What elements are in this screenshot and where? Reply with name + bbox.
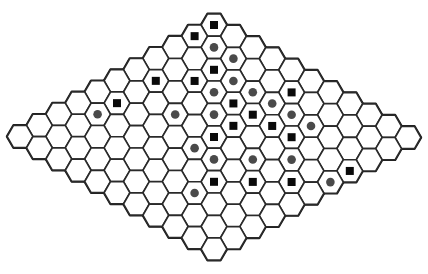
hex-cell[interactable] — [201, 238, 227, 260]
hex-game-board — [0, 0, 428, 274]
square-stone-icon — [113, 99, 121, 107]
circle-stone-icon — [210, 43, 219, 52]
square-stone-icon — [249, 178, 257, 186]
circle-stone-icon — [93, 110, 102, 119]
circle-stone-icon — [287, 155, 296, 164]
circle-stone-icon — [307, 122, 316, 131]
circle-stone-icon — [210, 88, 219, 97]
square-stone-icon — [229, 99, 237, 107]
square-stone-icon — [210, 133, 218, 141]
circle-stone-icon — [210, 110, 219, 119]
square-stone-icon — [288, 178, 296, 186]
circle-stone-icon — [249, 155, 258, 164]
square-stone-icon — [210, 66, 218, 74]
square-stone-icon — [229, 122, 237, 130]
circle-stone-icon — [190, 189, 199, 198]
square-stone-icon — [210, 21, 218, 29]
circle-stone-icon — [326, 178, 335, 187]
circle-stone-icon — [171, 110, 180, 119]
square-stone-icon — [191, 77, 199, 85]
circle-stone-icon — [190, 144, 199, 153]
circle-stone-icon — [229, 54, 238, 63]
square-stone-icon — [268, 122, 276, 130]
square-stone-icon — [152, 77, 160, 85]
circle-stone-icon — [268, 99, 277, 108]
square-stone-icon — [346, 167, 354, 175]
circle-stone-icon — [287, 111, 296, 120]
square-stone-icon — [191, 32, 199, 40]
circle-stone-icon — [210, 155, 219, 164]
square-stone-icon — [210, 178, 218, 186]
square-stone-icon — [288, 88, 296, 96]
square-stone-icon — [249, 111, 257, 119]
circle-stone-icon — [249, 88, 258, 97]
circle-stone-icon — [229, 77, 238, 86]
square-stone-icon — [288, 133, 296, 141]
